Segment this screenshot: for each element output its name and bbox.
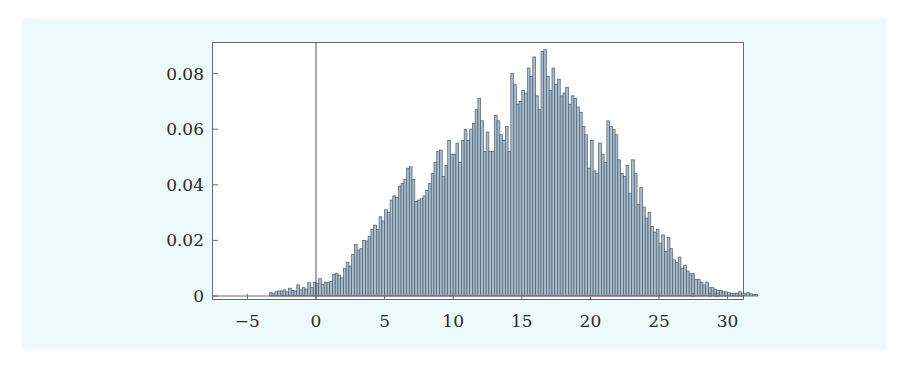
histogram-bar (409, 167, 412, 296)
histogram-bar (338, 275, 341, 296)
histogram-bar (294, 291, 297, 296)
histogram-bar (418, 200, 421, 296)
histogram-bar (585, 135, 588, 296)
x-tick-label: 0 (296, 312, 336, 330)
histogram-bar (445, 165, 448, 296)
histogram-bar (519, 101, 522, 296)
histogram-bar (637, 204, 640, 296)
histogram-bar (269, 293, 272, 296)
histogram-bar (429, 183, 432, 296)
histogram-bar (335, 273, 338, 296)
histogram-bar (385, 210, 388, 296)
histogram-bar (538, 110, 541, 296)
histogram-bar (368, 236, 371, 296)
histogram-bar (662, 235, 665, 296)
histogram-bar (686, 271, 689, 296)
histogram-bar (302, 288, 305, 296)
histogram-bar (398, 186, 401, 296)
histogram-bar (579, 113, 582, 296)
x-tick-label: 10 (433, 312, 473, 330)
histogram-bar (404, 179, 407, 296)
histogram-bar (321, 284, 324, 296)
histogram-bar (590, 140, 593, 296)
histogram-bar (280, 291, 283, 296)
histogram-bar (319, 279, 322, 296)
histogram-bar (607, 121, 610, 296)
histogram-bar (552, 68, 555, 296)
histogram-bar (675, 263, 678, 296)
histogram-bar (289, 288, 292, 296)
x-tick-label: −5 (227, 312, 267, 330)
histogram-bar (618, 160, 621, 296)
histogram-bar (437, 151, 440, 296)
histogram-bar (645, 218, 648, 296)
histogram-bar (346, 262, 349, 296)
histogram-bar (530, 76, 533, 296)
histogram-bar (571, 96, 574, 296)
histogram-bar (651, 227, 654, 297)
histogram-bar (615, 135, 618, 296)
histogram-bar (461, 140, 464, 296)
histogram-bar (401, 183, 404, 296)
histogram-bar (300, 290, 303, 296)
histogram-bar (459, 163, 462, 296)
histogram-bar (563, 93, 566, 296)
histogram-bar (278, 291, 281, 296)
histogram-bar (349, 266, 352, 296)
histogram-bar (604, 163, 607, 296)
histogram-bar (365, 241, 368, 296)
histogram-bar (577, 107, 580, 296)
histogram-bar (610, 126, 613, 296)
histogram-bar (527, 68, 530, 296)
histogram-bar (692, 274, 695, 296)
histogram-bar (656, 229, 659, 296)
histogram-bar (439, 150, 442, 296)
histogram-bar (599, 143, 602, 296)
histogram-bar (566, 88, 569, 297)
histogram-bar (308, 283, 311, 296)
histogram-bar (500, 135, 503, 296)
histogram-bar (503, 140, 506, 296)
histogram-bar (305, 289, 308, 296)
histogram-bar (678, 257, 681, 296)
histogram-bar (423, 196, 426, 296)
histogram-bar (453, 154, 456, 296)
histogram-bar (582, 126, 585, 296)
histogram-bar (739, 292, 742, 296)
y-tick-label: 0.08 (144, 65, 204, 83)
histogram-bar (722, 292, 725, 296)
x-tick-label: 30 (708, 312, 748, 330)
histogram-bar (426, 190, 429, 296)
histogram-bar (412, 179, 415, 296)
histogram-bar (475, 110, 478, 296)
histogram-bar (448, 140, 451, 296)
histogram-bar (525, 93, 528, 296)
histogram-bar (574, 99, 577, 296)
histogram-bar (557, 79, 560, 296)
histogram-bar (560, 96, 563, 296)
x-tick-label: 15 (502, 312, 542, 330)
histogram-bar (689, 274, 692, 296)
histogram-bar (431, 174, 434, 296)
histogram-bar (664, 252, 667, 296)
histogram-bar (706, 282, 709, 296)
histogram-bar (632, 160, 635, 296)
histogram-bar (505, 126, 508, 296)
histogram-bar (667, 238, 670, 296)
histogram-bar (711, 288, 714, 296)
histogram-bar (508, 151, 511, 296)
histogram-bar (275, 292, 278, 296)
histogram-bar (648, 213, 651, 296)
histogram-bar (363, 240, 366, 296)
histogram-bar (511, 74, 514, 296)
histogram-bar (360, 249, 363, 296)
histogram-bar (481, 121, 484, 296)
histogram-bar (516, 104, 519, 296)
histogram-bar (450, 154, 453, 296)
histogram-bar (549, 90, 552, 296)
histogram-bar (640, 188, 643, 296)
histogram-bar (593, 171, 596, 296)
histogram-bar (486, 132, 489, 296)
histogram-bar (755, 295, 758, 296)
histogram-bar (750, 294, 753, 296)
